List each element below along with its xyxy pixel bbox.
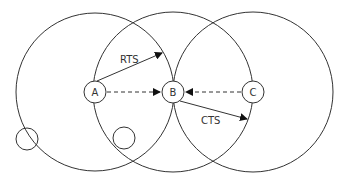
rts-label: RTS [120, 54, 139, 65]
node-b-label: B [170, 87, 177, 98]
extra-node-2 [113, 127, 135, 149]
cts-label: CTS [201, 115, 220, 126]
rts-cts-diagram: RTS CTS A B C [0, 0, 350, 185]
node-c: C [242, 81, 264, 103]
node-a-label: A [92, 87, 99, 98]
node-b: B [162, 81, 184, 103]
node-a: A [84, 81, 106, 103]
node-c-label: C [250, 87, 257, 98]
